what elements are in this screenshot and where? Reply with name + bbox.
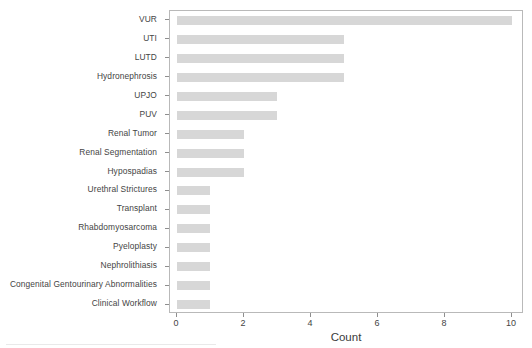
bar-row — [170, 200, 522, 219]
x-axis-tick-mark — [444, 313, 445, 317]
x-axis-tick-mark — [176, 313, 177, 317]
y-axis-tick-label: Rhabdomyosarcoma — [0, 218, 157, 237]
bar — [177, 262, 211, 271]
bar — [177, 35, 345, 44]
bar — [177, 243, 211, 252]
bar — [177, 149, 244, 158]
bar — [177, 224, 211, 233]
y-axis-tick-label: LUTD — [0, 48, 157, 67]
bar-row — [170, 144, 522, 163]
x-axis-tick-mark — [310, 313, 311, 317]
bar-row — [170, 238, 522, 257]
scan-artifact — [6, 344, 216, 345]
bar — [177, 111, 278, 120]
y-axis-tick-label: VUR — [0, 10, 157, 29]
x-axis-tick-label: 8 — [434, 318, 454, 328]
bar — [177, 92, 278, 101]
x-axis-tick-label: 0 — [166, 318, 186, 328]
bar-row — [170, 125, 522, 144]
bar — [177, 54, 345, 63]
bar-row — [170, 30, 522, 49]
plot-area — [169, 10, 523, 313]
y-axis-tick-label: Renal Tumor — [0, 124, 157, 143]
figure: VURUTILUTDHydronephrosisUPJOPUVRenal Tum… — [0, 0, 532, 348]
bar-row — [170, 49, 522, 68]
bar — [177, 168, 244, 177]
y-axis-tick-label: Pyeloplasty — [0, 237, 157, 256]
x-axis-title: Count — [169, 331, 523, 343]
y-axis-tick-label: UTI — [0, 29, 157, 48]
bar-row — [170, 219, 522, 238]
x-axis-tick-label: 2 — [233, 318, 253, 328]
x-axis-tick-label: 6 — [367, 318, 387, 328]
bar-row — [170, 163, 522, 182]
y-axis-tick-label: Renal Segmentation — [0, 143, 157, 162]
bar-row — [170, 257, 522, 276]
y-axis-tick-label: Hydronephrosis — [0, 67, 157, 86]
y-axis-tick-label: Nephrolithiasis — [0, 256, 157, 275]
bar — [177, 186, 211, 195]
y-axis-tick-label: Clinical Workflow — [0, 294, 157, 313]
x-axis-tick-label: 4 — [300, 318, 320, 328]
x-axis-tick-label: 10 — [501, 318, 521, 328]
bar-row — [170, 276, 522, 295]
x-axis-tick-mark — [377, 313, 378, 317]
bar — [177, 130, 244, 139]
y-axis-labels: VURUTILUTDHydronephrosisUPJOPUVRenal Tum… — [0, 10, 163, 313]
y-axis-tick-label: Congenital Gentourinary Abnormalities — [0, 275, 157, 294]
y-axis-tick-label: Transplant — [0, 199, 157, 218]
bar — [177, 205, 211, 214]
y-axis-tick-label: UPJO — [0, 86, 157, 105]
y-axis-tick-label: Urethral Strictures — [0, 180, 157, 199]
bar-row — [170, 106, 522, 125]
x-axis-tick-mark — [511, 313, 512, 317]
bar-row — [170, 295, 522, 314]
bar-row — [170, 11, 522, 30]
bar-row — [170, 181, 522, 200]
bar — [177, 300, 211, 309]
bar — [177, 281, 211, 290]
y-axis-tick-label: Hypospadias — [0, 162, 157, 181]
y-axis-tick-label: PUV — [0, 105, 157, 124]
bar — [177, 73, 345, 82]
x-axis-tick-mark — [243, 313, 244, 317]
bar — [177, 16, 512, 25]
bar-row — [170, 68, 522, 87]
bar-row — [170, 87, 522, 106]
